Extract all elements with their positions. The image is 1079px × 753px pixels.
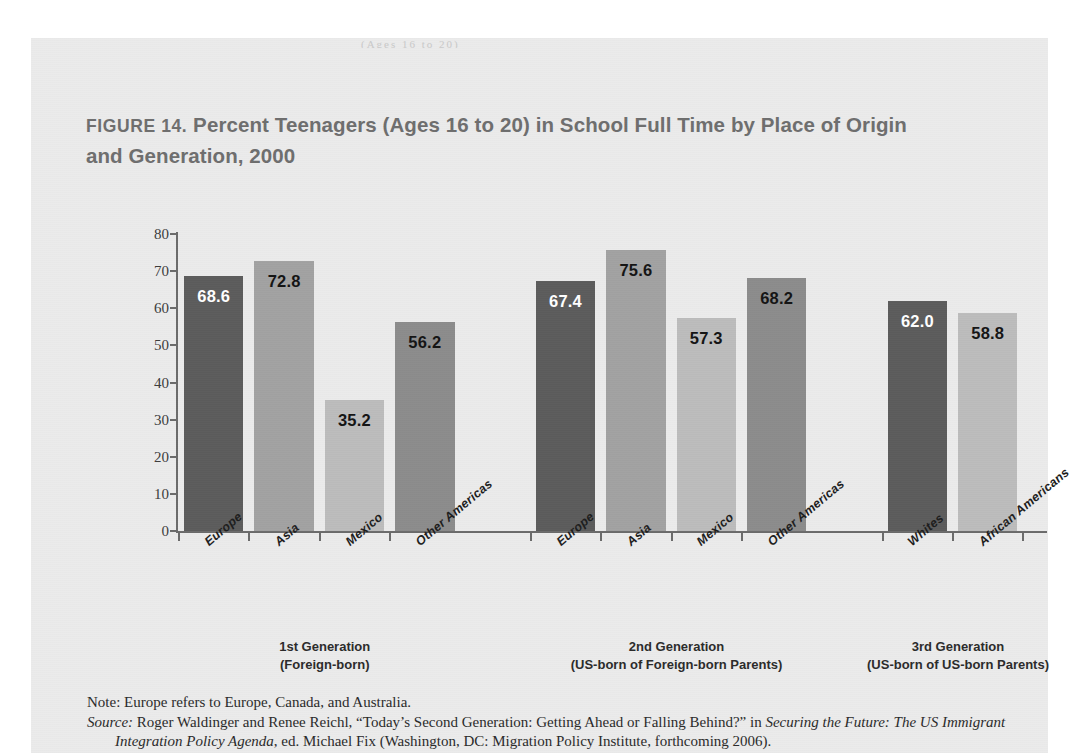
bar-value-label: 56.2 bbox=[395, 333, 454, 352]
source-text-1: Roger Waldinger and Renee Reichl, “Today… bbox=[133, 714, 765, 730]
bar-mexico: 57.3 bbox=[677, 318, 736, 531]
bar-value-label: 62.0 bbox=[888, 312, 947, 331]
bar-value-label: 75.6 bbox=[606, 261, 665, 280]
figure-notes: Note: Europe refers to Europe, Canada, a… bbox=[87, 693, 1067, 752]
bar-african-americans: 58.8 bbox=[958, 313, 1017, 531]
y-tick-mark bbox=[170, 233, 177, 235]
scanned-page-panel: (Ages 16 to 20) FIGURE 14. Percent Teena… bbox=[31, 38, 1048, 753]
x-tick-mark bbox=[530, 533, 532, 541]
x-tick-mark bbox=[952, 533, 954, 541]
y-tick-mark bbox=[170, 493, 177, 495]
source-line: Source: Roger Waldinger and Renee Reichl… bbox=[87, 713, 1067, 752]
bar-asia: 72.8 bbox=[254, 261, 313, 531]
bar-europe: 68.6 bbox=[184, 276, 243, 531]
x-tick-mark bbox=[671, 533, 673, 541]
bar-whites: 62.0 bbox=[888, 301, 947, 531]
y-tick-mark bbox=[170, 419, 177, 421]
y-tick-mark bbox=[170, 530, 177, 532]
y-tick-label: 70 bbox=[129, 263, 169, 280]
x-tick-mark bbox=[178, 533, 180, 541]
bar-value-label: 68.6 bbox=[184, 287, 243, 306]
source-label: Source: bbox=[87, 714, 133, 730]
x-tick-mark bbox=[741, 533, 743, 541]
bar-value-label: 67.4 bbox=[536, 292, 595, 311]
bar-value-label: 72.8 bbox=[254, 272, 313, 291]
y-tick-mark bbox=[170, 344, 177, 346]
x-tick-mark bbox=[389, 533, 391, 541]
figure-number: FIGURE 14. bbox=[86, 116, 187, 136]
x-tick-mark bbox=[882, 533, 884, 541]
note-label: Note: bbox=[87, 694, 120, 710]
group-caption-3: 3rd Generation(US-born of US-born Parent… bbox=[778, 638, 1079, 674]
bar-asia: 75.6 bbox=[606, 250, 665, 531]
bar-value-label: 58.8 bbox=[958, 324, 1017, 343]
figure-title-text: Percent Teenagers (Ages 16 to 20) in Sch… bbox=[86, 113, 907, 167]
group-caption-line2: (Foreign-born) bbox=[145, 656, 505, 674]
cropped-text-sliver: (Ages 16 to 20) bbox=[361, 38, 781, 48]
x-tick-mark bbox=[248, 533, 250, 541]
note-text: Europe refers to Europe, Canada, and Aus… bbox=[120, 694, 411, 710]
y-tick-mark bbox=[170, 382, 177, 384]
y-tick-label: 0 bbox=[129, 523, 169, 540]
bar-value-label: 35.2 bbox=[325, 411, 384, 430]
bar-other-americas: 68.2 bbox=[747, 278, 806, 531]
x-tick-mark bbox=[319, 533, 321, 541]
group-caption-line2: (US-born of US-born Parents) bbox=[778, 656, 1079, 674]
y-tick-label: 20 bbox=[129, 448, 169, 465]
y-tick-mark bbox=[170, 307, 177, 309]
y-tick-label: 50 bbox=[129, 337, 169, 354]
x-tick-mark bbox=[600, 533, 602, 541]
bar-europe: 67.4 bbox=[536, 281, 595, 531]
y-tick-label: 80 bbox=[129, 226, 169, 243]
group-caption-line1: 1st Generation bbox=[145, 638, 505, 656]
bar-value-label: 68.2 bbox=[747, 289, 806, 308]
source-text-2: , ed. Michael Fix (Washington, DC: Migra… bbox=[274, 733, 771, 749]
bar-chart: 01020304050607080 68.672.835.256.267.475… bbox=[127, 226, 1047, 546]
group-caption-1: 1st Generation(Foreign-born) bbox=[145, 638, 505, 674]
y-tick-label: 40 bbox=[129, 374, 169, 391]
bar-value-label: 57.3 bbox=[677, 329, 736, 348]
figure-title: FIGURE 14. Percent Teenagers (Ages 16 to… bbox=[86, 110, 926, 171]
y-tick-mark bbox=[170, 456, 177, 458]
y-tick-mark bbox=[170, 270, 177, 272]
note-line: Note: Europe refers to Europe, Canada, a… bbox=[87, 693, 1067, 713]
x-tick-mark bbox=[1022, 533, 1024, 541]
y-tick-label: 10 bbox=[129, 485, 169, 502]
group-caption-line1: 3rd Generation bbox=[778, 638, 1079, 656]
y-tick-label: 30 bbox=[129, 411, 169, 428]
bar-other-americas: 56.2 bbox=[395, 322, 454, 531]
y-tick-label: 60 bbox=[129, 300, 169, 317]
